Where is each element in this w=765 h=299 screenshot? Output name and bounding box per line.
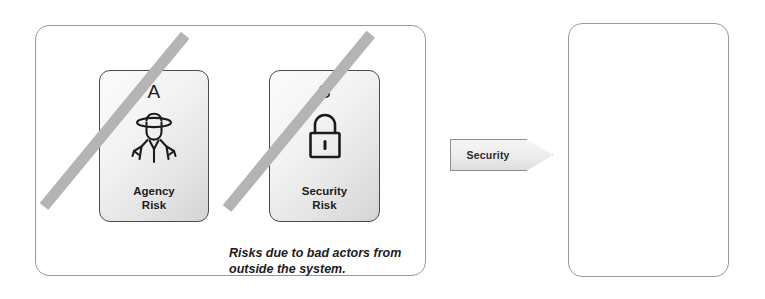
card-label-security-risk: Security Risk bbox=[270, 185, 379, 212]
card-label-line2: Risk bbox=[312, 199, 336, 211]
card-code-agency: A bbox=[148, 82, 161, 101]
padlock-icon bbox=[298, 107, 352, 167]
card-label-line1: Agency bbox=[133, 185, 175, 197]
card-label-line2: Risk bbox=[142, 199, 166, 211]
internal-risks-group: Cx Complexity Risk bbox=[568, 23, 729, 277]
card-agency-risk[interactable]: A bbox=[99, 70, 209, 222]
external-risks-group: A bbox=[35, 25, 426, 276]
card-label-line1: Security bbox=[302, 185, 347, 197]
security-arrow-label: Security bbox=[450, 139, 526, 171]
external-risks-caption: Risks due to bad actors from outside the… bbox=[229, 245, 449, 277]
card-label-agency-risk: Agency Risk bbox=[100, 185, 208, 212]
card-security-risk[interactable]: S Security Risk bbox=[269, 70, 380, 222]
spy-person-icon bbox=[121, 107, 187, 167]
security-arrow[interactable]: Security bbox=[450, 139, 553, 171]
card-code-security: S bbox=[318, 82, 331, 101]
